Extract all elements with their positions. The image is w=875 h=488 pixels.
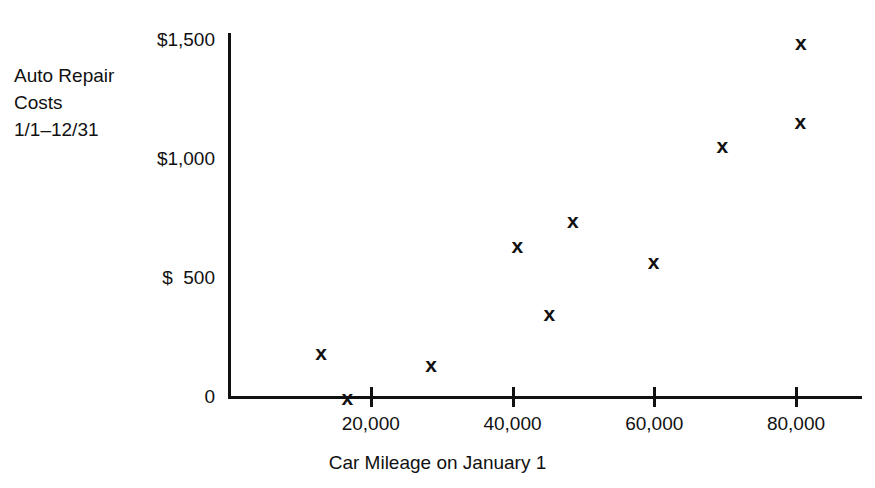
data-point-marker: x: [342, 387, 354, 408]
data-point-marker: x: [315, 341, 327, 362]
data-point-marker: x: [794, 110, 806, 131]
data-point-marker: x: [648, 251, 660, 272]
data-point-layer: xxxxxxxxxx: [0, 0, 875, 488]
data-point-marker: x: [795, 32, 807, 53]
data-point-marker: x: [425, 353, 437, 374]
scatter-plot-figure: 0$ 500$1,000$1,500 20,00040,00060,00080,…: [0, 0, 875, 488]
data-point-marker: x: [544, 302, 556, 323]
data-point-marker: x: [716, 134, 728, 155]
data-point-marker: x: [512, 234, 524, 255]
data-point-marker: x: [567, 209, 579, 230]
